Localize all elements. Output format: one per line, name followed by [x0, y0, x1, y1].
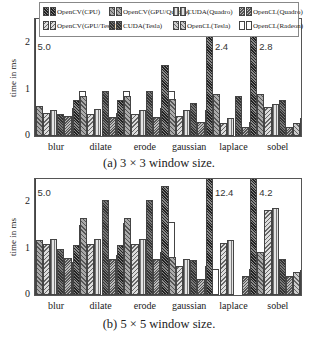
bar	[220, 243, 227, 295]
caption-b: (b) 5 × 5 window size.	[0, 317, 318, 332]
bar	[257, 252, 264, 295]
value-annotation: 4.2	[259, 187, 272, 198]
value-annotation: 12.4	[215, 187, 234, 198]
bar	[169, 257, 176, 295]
bar	[183, 259, 190, 295]
bar	[286, 276, 293, 295]
bar	[36, 240, 43, 295]
bar	[300, 270, 302, 295]
bar	[117, 245, 124, 295]
bar	[242, 276, 249, 295]
bar	[272, 208, 279, 295]
bar	[124, 218, 131, 295]
y-tick-label: 2	[18, 195, 30, 206]
bar	[64, 258, 71, 295]
bar	[80, 218, 87, 295]
bar	[102, 200, 109, 295]
y-tick-label: 1	[18, 242, 30, 253]
bar	[190, 260, 197, 295]
caption-a: (a) 3 × 3 window size.	[0, 156, 318, 171]
bar	[87, 244, 94, 295]
bar	[50, 239, 57, 295]
y-axis-label: time in ms	[8, 218, 18, 256]
x-tick-label: sobel	[253, 300, 303, 311]
bar	[94, 239, 101, 295]
bar	[57, 249, 64, 296]
bar	[264, 210, 271, 295]
x-tick-label: erode	[120, 300, 170, 311]
bar	[146, 200, 153, 295]
bar	[139, 239, 146, 295]
x-tick-label: blur	[31, 300, 81, 311]
x-tick-label: laplace	[209, 300, 259, 311]
bar	[197, 279, 204, 295]
bar	[227, 240, 234, 295]
x-tick-label: dilate	[76, 300, 126, 311]
bar	[43, 244, 50, 295]
chart-b: blurdilateerodegaussianlaplacesobel5.012…	[0, 0, 318, 346]
value-annotation: 5.0	[38, 187, 51, 198]
bar	[131, 244, 138, 295]
bar	[176, 266, 183, 295]
bar	[153, 259, 160, 295]
x-tick-label: gaussian	[164, 300, 214, 311]
y-tick-label: 0	[18, 288, 30, 299]
bar	[109, 259, 116, 295]
bar	[293, 272, 300, 295]
bar	[206, 178, 213, 295]
bar	[279, 259, 286, 295]
bar	[73, 245, 80, 295]
bar	[250, 178, 257, 295]
bar	[161, 186, 168, 295]
